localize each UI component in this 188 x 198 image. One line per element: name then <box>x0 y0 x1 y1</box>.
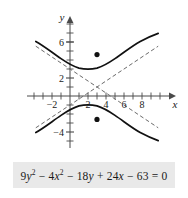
equation-caption-bar: 9y2 − 4x2 − 18y + 24x − 63 = 0 <box>13 162 175 188</box>
equation-term-4-coef: 24 <box>107 170 119 182</box>
focus-lower-point <box>94 117 99 122</box>
equation-term-2-exponent: 2 <box>60 168 64 177</box>
y-axis-arrow <box>67 16 74 23</box>
equation-term-3-coef: 18 <box>77 170 89 182</box>
x-tick-label-8: 8 <box>140 99 145 110</box>
x-tick-label--2: −2 <box>47 99 58 110</box>
equation-operator-1: − <box>39 170 46 182</box>
equation-term-5: 63 <box>137 170 149 182</box>
x-axis-label: x <box>172 98 178 110</box>
asymptotes-group <box>36 46 158 128</box>
equation-equals-sign: = <box>152 170 159 182</box>
hyperbola-figure: −2 2 4 6 8 6 2 −4 y x 9y2 − 4x2 − 18y + … <box>0 0 188 198</box>
hyperbola-plot: −2 2 4 6 8 6 2 −4 y x <box>0 0 188 158</box>
equation-operator-2: − <box>67 170 74 182</box>
equation-term-3-var: y <box>89 170 94 182</box>
equation-term-1-exponent: 2 <box>32 168 36 177</box>
y-tick-label-6: 6 <box>59 37 64 48</box>
y-axis-label: y <box>59 11 65 23</box>
equation-text: 9y2 − 4x2 − 18y + 24x − 63 = 0 <box>21 168 168 182</box>
upper-branch <box>36 33 158 69</box>
focus-upper-point <box>94 52 99 57</box>
y-tick-label--4: −4 <box>53 127 64 138</box>
y-tick-label-2: 2 <box>59 73 64 84</box>
equation-right-hand-side: 0 <box>162 170 168 182</box>
x-tick-label-6: 6 <box>122 99 127 110</box>
equation-operator-4: − <box>127 170 134 182</box>
x-tick-label-2: 2 <box>86 99 91 110</box>
equation-term-4-var: x <box>119 170 124 182</box>
equation-operator-3: + <box>97 170 104 182</box>
y-tick-labels: 6 2 −4 <box>53 37 64 138</box>
x-tick-label-4: 4 <box>104 99 109 110</box>
